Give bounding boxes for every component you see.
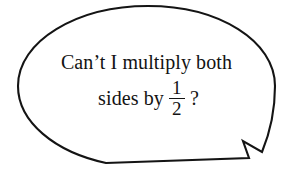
speech-bubble-outline [0,0,293,174]
speech-bubble-path [18,6,275,163]
speech-bubble-illustration: Can’t I multiply both sides by 1 2 ? [0,0,293,174]
